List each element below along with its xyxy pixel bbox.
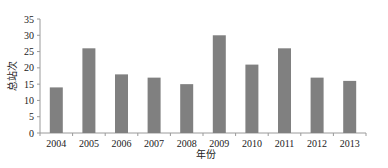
bar-2010 xyxy=(245,65,258,133)
x-tick-label: 2013 xyxy=(340,138,360,149)
x-tick-label: 2007 xyxy=(144,138,164,149)
bar-2009 xyxy=(213,35,226,133)
bar-2008 xyxy=(180,84,193,133)
x-tick-label: 2012 xyxy=(307,138,327,149)
bar-2004 xyxy=(50,87,63,133)
x-tick-label: 2004 xyxy=(46,138,66,149)
x-tick-label: 2011 xyxy=(275,138,295,149)
y-tick-label: 20 xyxy=(24,62,34,73)
y-tick-label: 5 xyxy=(29,111,34,122)
y-axis-title: 总站次 xyxy=(6,61,18,91)
x-tick-label: 2005 xyxy=(79,138,99,149)
x-axis-title: 年份 xyxy=(196,148,216,160)
y-tick-label: 10 xyxy=(24,95,34,106)
bar-2007 xyxy=(148,78,161,133)
y-axis: 05101520253035 xyxy=(24,14,40,139)
bar-2006 xyxy=(115,74,128,133)
bar-2011 xyxy=(278,48,291,133)
y-tick-label: 35 xyxy=(24,14,34,25)
bar-2005 xyxy=(82,48,95,133)
x-tick-label: 2010 xyxy=(242,138,262,149)
bar-2012 xyxy=(311,78,324,133)
x-axis: 2004200520062007200820092010201120122013 xyxy=(40,133,366,149)
x-tick-label: 2008 xyxy=(177,138,197,149)
y-tick-label: 25 xyxy=(24,46,34,57)
bar-2013 xyxy=(343,81,356,133)
x-tick-label: 2009 xyxy=(209,138,229,149)
x-tick-label: 2006 xyxy=(112,138,132,149)
y-tick-label: 30 xyxy=(24,30,34,41)
bar-chart: 05101520253035 2004200520062007200820092… xyxy=(0,0,388,168)
y-tick-label: 15 xyxy=(24,79,34,90)
y-tick-label: 0 xyxy=(29,128,34,139)
bars xyxy=(50,35,356,133)
